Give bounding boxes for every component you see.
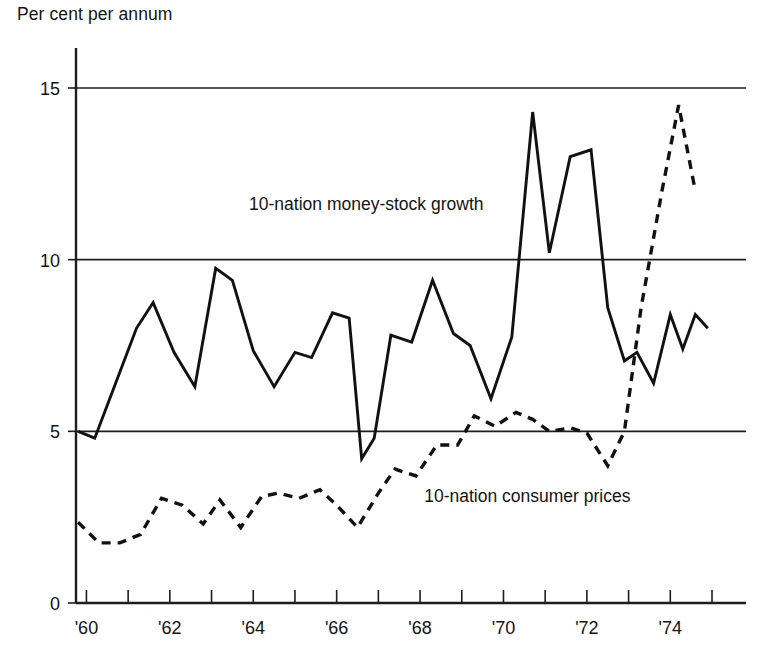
series-label-money-stock-growth: 10-nation money-stock growth (249, 194, 483, 214)
x-tick-label-1970: '70 (492, 618, 515, 638)
x-tick-label-1962: '62 (158, 618, 181, 638)
x-tick-label-1964: '64 (242, 618, 265, 638)
x-axis-ticks-group: '60'62'64'66'68'70'72'74 (75, 590, 712, 638)
series-annotations-group: 10-nation money-stock growth10-nation co… (249, 194, 631, 506)
x-tick-label-1968: '68 (408, 618, 431, 638)
x-tick-label-1966: '66 (325, 618, 348, 638)
axis-lines-group (76, 48, 746, 603)
x-tick-label-1974: '74 (659, 618, 682, 638)
chart-container: Per cent per annum 051015 '60'62'64'66'6… (0, 0, 758, 660)
data-series-group (78, 105, 708, 543)
y-tick-label-5: 5 (50, 422, 60, 442)
series-line-consumer-prices (78, 105, 695, 543)
line-chart-plot: 051015 '60'62'64'66'68'70'72'74 10-natio… (0, 0, 758, 660)
y-axis-ticks-group: 051015 (40, 79, 76, 614)
y-tick-label-0: 0 (50, 594, 60, 614)
x-tick-label-1972: '72 (575, 618, 598, 638)
series-label-consumer-prices: 10-nation consumer prices (424, 486, 630, 506)
series-line-money-stock-growth (78, 112, 708, 459)
x-tick-label-1960: '60 (75, 618, 98, 638)
y-tick-label-15: 15 (40, 79, 60, 99)
gridlines-group (76, 88, 746, 431)
y-tick-label-10: 10 (40, 251, 60, 271)
